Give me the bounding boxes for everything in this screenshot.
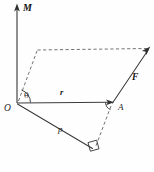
label-moment-axis: M [22, 2, 33, 13]
force-line-extension [96, 106, 112, 147]
parallelogram-top-edge [38, 49, 148, 51]
label-position-vector: r [60, 87, 64, 97]
force-vector-arrowhead [142, 47, 150, 55]
force-vector-line [113, 51, 148, 104]
label-angle-theta: θ [24, 91, 29, 100]
position-vector-group [17, 99, 114, 105]
label-origin: O [4, 103, 11, 113]
right-angle-marker-group [88, 140, 99, 151]
label-point-a: A [117, 102, 124, 112]
vector-diagram: M O θ r A F p [0, 0, 154, 172]
perpendicular-distance-line [18, 104, 93, 149]
figure-canvas: M O θ r A F p [0, 0, 154, 172]
perpendicular-distance-group [18, 104, 93, 149]
label-force-vector: F [131, 72, 139, 82]
moment-axis-group [14, 4, 20, 104]
force-line-of-action-group [96, 106, 112, 147]
parallelogram-construction-group [19, 49, 148, 102]
right-angle-square [88, 140, 99, 151]
label-perpendicular-distance: p [57, 124, 63, 134]
